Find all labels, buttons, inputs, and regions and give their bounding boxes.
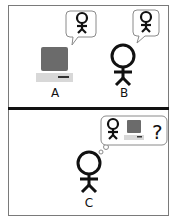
person-icon-b [112,45,134,85]
label-b: B [116,86,132,100]
computer-icon [124,120,144,140]
thought-bubble-c: ? [99,116,167,154]
diagram-canvas: ? [0,0,176,223]
speech-bubble-b [133,10,159,43]
question-mark: ? [152,120,163,144]
computer-icon-a [36,47,73,82]
label-c: C [81,196,97,210]
person-icon-c [78,152,100,192]
speech-bubble-a [66,11,96,45]
label-a: A [47,86,63,100]
